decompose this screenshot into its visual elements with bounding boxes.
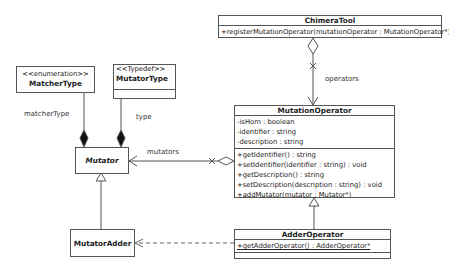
- class-name: MatcherType: [17, 79, 94, 88]
- attribute: -isHom : boolean: [237, 117, 393, 127]
- mutator-adder-generalization: [96, 173, 106, 229]
- class-mutation-operator[interactable]: MutationOperator -isHom : boolean -ident…: [234, 105, 395, 198]
- class-name: AdderOperator: [235, 230, 390, 240]
- operators-association: [308, 38, 318, 105]
- static-operation: +getAdderOperator() : AdderOperator*: [235, 240, 390, 253]
- type-label: type: [136, 113, 152, 121]
- operation: +addMutator(mutator : Mutator*): [237, 190, 393, 200]
- attribute: -identifier : string: [237, 127, 393, 137]
- matcher-type-composition: [80, 93, 88, 147]
- operation: +getDescription() : string: [237, 170, 393, 180]
- class-name: ChimeraTool: [219, 16, 441, 26]
- uml-diagram-canvas: ChimeraTool +registerMutationOperator(mu…: [0, 0, 449, 271]
- stereotype: <<Typedef>>: [114, 65, 175, 74]
- matcher-type-label: matcherType: [24, 110, 69, 118]
- class-name: MutatorAdder: [74, 239, 132, 248]
- adder-operator-dependency: [135, 239, 234, 247]
- class-mutator[interactable]: Mutator: [75, 147, 129, 174]
- mutators-association: [129, 156, 234, 166]
- operation: +setDescription(description : string) : …: [237, 180, 393, 190]
- class-mutator-adder[interactable]: MutatorAdder: [70, 229, 135, 257]
- operation: +getIdentifier() : string: [237, 150, 393, 160]
- operations-section: +getIdentifier() : string +setIdentifier…: [235, 148, 394, 201]
- mutator-type-composition: [117, 99, 125, 147]
- class-name: MutatorType: [114, 74, 175, 90]
- attribute: -description : string: [237, 137, 393, 147]
- class-matcher-type[interactable]: <<enumeration>> MatcherType: [16, 66, 95, 93]
- class-chimera-tool[interactable]: ChimeraTool +registerMutationOperator(mu…: [218, 15, 442, 38]
- stereotype: <<enumeration>>: [17, 70, 94, 79]
- class-name: Mutator: [86, 156, 119, 165]
- class-mutator-type[interactable]: <<Typedef>> MutatorType: [113, 64, 176, 99]
- operators-label: operators: [325, 75, 359, 83]
- attributes-section: -isHom : boolean -identifier : string -d…: [235, 116, 394, 148]
- mutators-label: mutators: [147, 148, 179, 156]
- adder-operator-generalization: [309, 198, 319, 229]
- class-name: MutationOperator: [235, 106, 394, 116]
- operation: +registerMutationOperator(mutationOperat…: [219, 26, 441, 38]
- operation: +setIdentifier(identifier : string) : vo…: [237, 160, 393, 170]
- class-adder-operator[interactable]: AdderOperator +getAdderOperator() : Adde…: [234, 229, 391, 259]
